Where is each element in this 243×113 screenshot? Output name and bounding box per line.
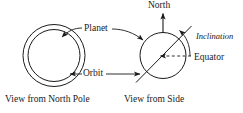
planet-leader-right bbox=[112, 29, 143, 40]
planet-label: Planet bbox=[84, 24, 108, 34]
caption-view-from-north-pole: View from North Pole bbox=[5, 95, 90, 105]
caption-view-from-side: View from Side bbox=[124, 95, 184, 105]
planet-leader-left bbox=[62, 28, 82, 37]
orbit-circle bbox=[23, 25, 85, 87]
planet-inclination-diagram: Planet Orbit North Inclination Equator V… bbox=[0, 0, 243, 113]
inclination-label: Inclination bbox=[196, 32, 233, 41]
equator-label: Equator bbox=[194, 53, 224, 63]
north-label: North bbox=[148, 1, 170, 11]
inclination-arc bbox=[180, 31, 191, 57]
orbit-label: Orbit bbox=[83, 69, 103, 79]
